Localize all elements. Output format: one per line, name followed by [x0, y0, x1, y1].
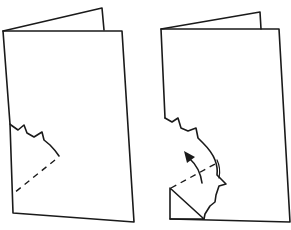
folded-corner — [170, 188, 204, 219]
step-2-card — [161, 12, 290, 222]
cut-edge — [165, 118, 226, 219]
fold-arrow-head-icon — [184, 151, 195, 163]
card-back-flap — [3, 8, 104, 31]
fold-arrow-arc — [190, 159, 202, 183]
fold-line — [14, 160, 55, 193]
cut-edge — [10, 124, 59, 156]
fold-line — [171, 163, 217, 188]
step-1-card — [3, 8, 134, 222]
card-back-flap — [161, 12, 261, 29]
folding-diagram — [0, 0, 291, 230]
